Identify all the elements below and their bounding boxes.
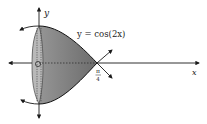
curve-label: y = cos(2x) [76,29,125,39]
rotation-arrow-bottom [21,100,39,104]
solid-of-revolution-diagram: y x y = cos(2x) π 4 [0,0,207,124]
rotation-arrow-tip-up [97,50,112,63]
solid-front-face [32,26,43,104]
y-axis-label: y [43,8,50,18]
tick-label-numerator: π [96,67,100,74]
x-axis-label: x [192,68,197,77]
rotation-arrow-top [20,26,39,30]
tick-label-denominator: 4 [96,76,100,82]
